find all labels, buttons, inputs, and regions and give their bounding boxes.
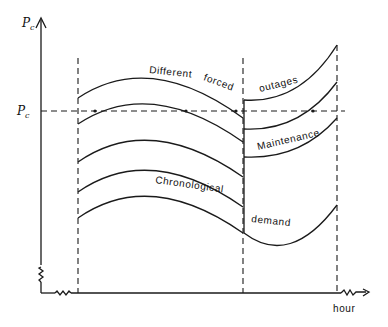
x-axis-break-left-icon: [55, 291, 71, 295]
left-segment-curves: [78, 78, 243, 233]
pc-crossing-point: [234, 109, 237, 112]
pc-crossing-point: [93, 109, 96, 112]
diagram-canvas: Pc Pc hour Different forced outages Main…: [0, 0, 388, 327]
y-axis-label: Pc: [21, 16, 35, 32]
curve-right-1: [244, 45, 337, 100]
label-maintenance: Maintenance: [256, 127, 321, 152]
label-forced: forced: [202, 72, 235, 93]
x-axis: [41, 289, 369, 296]
pc-crossing-point: [311, 109, 314, 112]
load-curve-diagram: Pc Pc hour Different forced outages Main…: [0, 0, 388, 327]
y-axis-break-icon: [39, 267, 43, 282]
label-different: Different: [149, 64, 193, 79]
label-chronological: Chronological: [155, 174, 225, 194]
y-axis: [36, 18, 46, 293]
pc-crossing-point: [184, 109, 187, 112]
curve-right-2: [244, 82, 337, 129]
curve-left-2: [78, 104, 243, 142]
curve-left-5-demand: [78, 196, 243, 233]
x-axis-label: hour: [333, 303, 355, 314]
label-demand: demand: [251, 213, 292, 228]
label-outages: outages: [258, 74, 299, 94]
pc-level-label: Pc: [16, 104, 30, 120]
x-axis-break-right-icon: [341, 290, 366, 295]
